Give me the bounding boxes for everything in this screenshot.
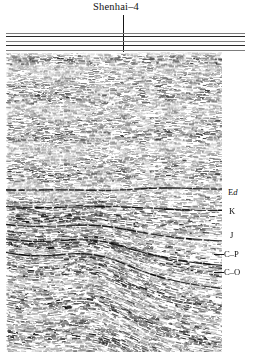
seismic-canvas — [6, 52, 222, 352]
seismic-figure: Shenhai–4 Ed K J C–P C–O — [0, 0, 266, 362]
top-rule-2 — [6, 41, 245, 42]
horizon-leader-c-p — [214, 254, 224, 255]
top-rule-dark-2 — [6, 45, 245, 46]
horizon-label-c-p: C–P — [224, 250, 239, 259]
well-name-label: Shenhai–4 — [93, 1, 139, 12]
horizon-label-ed: Ed — [228, 188, 238, 197]
horizon-leader-c-o — [214, 272, 224, 273]
seismic-trace-panel — [6, 52, 222, 352]
horizon-label-k: K — [229, 207, 235, 216]
horizon-label-j: J — [230, 231, 233, 240]
horizon-label-c-o: C–O — [224, 268, 240, 277]
top-rule-dark-1 — [6, 36, 245, 37]
top-rule-1 — [6, 33, 245, 34]
figure-title: Shenhai–4 — [0, 1, 266, 12]
top-rule-3 — [6, 50, 245, 51]
